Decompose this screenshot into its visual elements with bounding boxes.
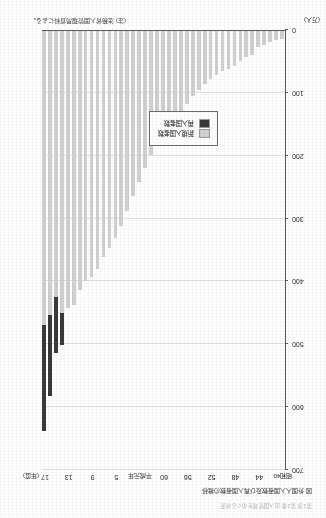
bar-segment: [96, 31, 100, 269]
x-axis-label: 平成元年: [128, 472, 152, 481]
bar: [185, 31, 189, 104]
bar-segment: [256, 31, 260, 47]
legend-label: 新規入国者数: [158, 130, 194, 139]
bar-segment: [114, 31, 118, 238]
x-axis-label: 48: [232, 474, 240, 481]
bar: [262, 31, 266, 45]
bar-segment: [250, 31, 254, 55]
bar: [250, 31, 254, 55]
bar: [191, 31, 195, 96]
bar-segment: [42, 31, 46, 325]
bar-segment: [60, 31, 64, 313]
bar-segment: [215, 31, 219, 75]
x-axis-label: 52: [208, 474, 216, 481]
bar: [42, 31, 46, 431]
bar-segment: [233, 31, 237, 66]
bar: [280, 31, 284, 39]
bar-segment: [125, 31, 129, 211]
bar-segment: [239, 31, 243, 61]
bar: [125, 31, 129, 211]
bar: [239, 31, 243, 61]
bar-segment: [227, 31, 231, 69]
bar-segment: [173, 31, 177, 119]
y-axis-tick: [285, 469, 289, 470]
x-axis-label: 5: [114, 474, 118, 481]
bar-segment: [108, 31, 112, 248]
bar: [274, 31, 278, 40]
chart-legend: 新規入国者数再入国者数: [149, 112, 218, 147]
figure-note: (注) 法務省入国管理局資料による。: [30, 17, 126, 26]
bar-segment: [209, 31, 213, 79]
bar: [114, 31, 118, 238]
y-axis-label: 200: [292, 153, 318, 160]
bar: [60, 31, 64, 345]
legend-label: 再入国者数: [164, 119, 194, 128]
figure-title: 図 外国人入国者数及び再入国者数の推移: [202, 487, 312, 496]
y-axis-tick: [285, 29, 289, 30]
bar-segment: [84, 31, 88, 281]
bar: [209, 31, 213, 79]
bar-segment: [54, 31, 58, 298]
bar: [84, 31, 88, 281]
bar-segment: [102, 31, 106, 257]
bar: [143, 31, 147, 168]
y-axis-label: 300: [292, 216, 318, 223]
bar: [90, 31, 94, 277]
bar: [137, 31, 141, 182]
x-axis-label: 9: [91, 474, 95, 481]
y-axis-label: 0: [292, 27, 318, 34]
bar: [108, 31, 112, 248]
bar: [173, 31, 177, 119]
scanned-page: 第1部 第2章 出入国管理をめぐる状況 図 外国人入国者数及び再入国者数の推移 …: [0, 0, 326, 518]
legend-item: 再入国者数: [158, 119, 210, 128]
legend-color-swatch: [199, 130, 210, 139]
bar-segment: [244, 31, 248, 57]
bar: [203, 31, 207, 84]
x-axis-label: 昭和40: [274, 472, 293, 481]
bar: [179, 31, 183, 111]
y-axis-tick: [285, 92, 289, 93]
bar: [233, 31, 237, 66]
bar: [256, 31, 260, 47]
y-axis-label: 400: [292, 278, 318, 285]
legend-item: 新規入国者数: [158, 130, 210, 139]
y-axis-tick: [285, 406, 289, 407]
bar: [215, 31, 219, 75]
bar-segment: [268, 31, 272, 42]
bar: [102, 31, 106, 257]
page-running-header: 第1部 第2章 出入国管理をめぐる状況: [10, 502, 312, 510]
bar-series-container: [42, 31, 285, 470]
bar-segment: [143, 31, 147, 168]
chart-plot-area: [42, 30, 286, 470]
bar-segment: [120, 31, 124, 226]
bar-segment: [197, 31, 201, 90]
bar-segment: [42, 325, 46, 431]
bar: [66, 31, 70, 308]
bar-segment: [274, 31, 278, 40]
bar: [227, 31, 231, 69]
y-axis-tick: [285, 155, 289, 156]
bar: [197, 31, 201, 90]
bar-segment: [191, 31, 195, 96]
bar: [221, 31, 225, 71]
x-axis-label: 17: [41, 474, 49, 481]
bar: [72, 31, 76, 305]
bar-segment: [78, 31, 82, 290]
x-axis-label: 13: [65, 474, 73, 481]
bar-segment: [185, 31, 189, 104]
y-axis-label: 700: [292, 467, 318, 474]
bar-segment: [137, 31, 141, 182]
bar: [120, 31, 124, 226]
bar: [96, 31, 100, 269]
bar-segment: [280, 31, 284, 39]
bar: [48, 31, 52, 396]
bar-segment: [90, 31, 94, 277]
legend-color-swatch: [199, 119, 210, 128]
bar-segment: [48, 315, 52, 395]
bar-segment: [221, 31, 225, 71]
bar-segment: [60, 313, 64, 346]
bar: [78, 31, 82, 290]
y-axis-unit-label: (万人): [304, 16, 320, 25]
y-axis-tick: [285, 280, 289, 281]
x-axis-label: 44: [255, 474, 263, 481]
